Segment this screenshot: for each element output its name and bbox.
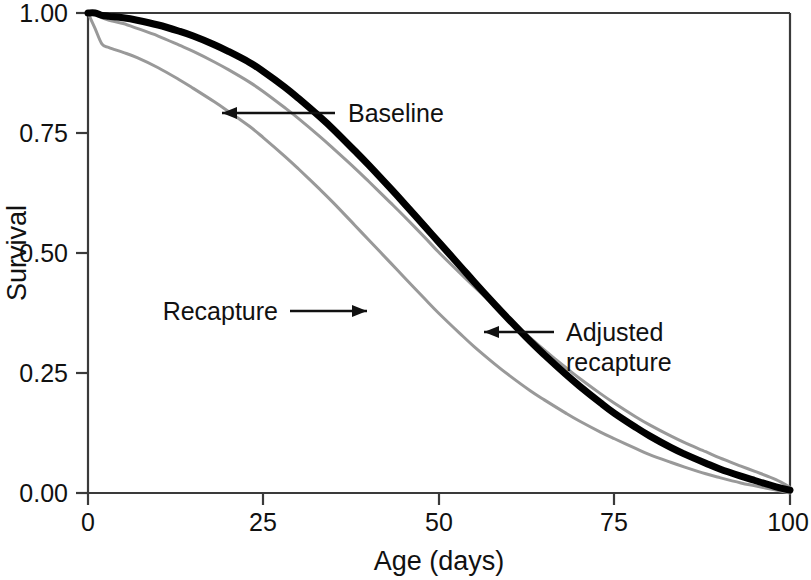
annotation-label-adjusted-line2: recapture [566,348,672,376]
curve-adjusted-recapture [88,13,790,487]
annotation-label-recapture: Recapture [163,297,278,325]
x-tick-label-0: 0 [81,508,95,536]
x-axis-title: Age (days) [374,546,505,576]
x-tick-label-75: 75 [600,508,628,536]
x-tick-label-25: 25 [249,508,277,536]
x-tick-labels: 0 25 50 75 100 [81,508,809,536]
data-curves-group [88,13,790,493]
y-tick-label-0.25: 0.25 [19,359,68,387]
annotation-label-adjusted-line1: Adjusted [566,318,663,346]
x-tick-label-100: 100 [767,508,809,536]
chart-canvas: 1.00 0.75 0.50 0.25 0.00 0 25 50 75 100 … [0,0,811,580]
y-tick-label-1.00: 1.00 [19,0,68,27]
x-tick-marks [88,493,790,505]
recapture-arrow-head-icon [352,305,367,317]
survival-curve-figure: 1.00 0.75 0.50 0.25 0.00 0 25 50 75 100 … [0,0,811,580]
y-tick-label-0.00: 0.00 [19,479,68,507]
adjusted-recapture-arrow-head-icon [484,326,499,338]
annotation-label-baseline: Baseline [348,99,444,127]
x-tick-label-50: 50 [425,508,453,536]
annotation-baseline: Baseline [222,99,444,127]
y-tick-label-0.75: 0.75 [19,119,68,147]
annotation-recapture: Recapture [163,297,367,325]
y-axis-title: Survival [2,205,32,301]
y-tick-marks [76,13,88,493]
